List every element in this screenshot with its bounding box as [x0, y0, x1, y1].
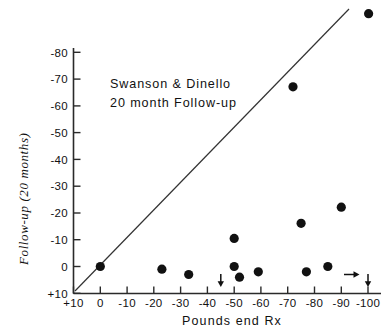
data-point — [184, 270, 193, 279]
data-point — [230, 234, 239, 243]
data-point — [288, 82, 297, 91]
x-axis-ticks — [74, 287, 369, 294]
x-tick-label: -80 — [306, 297, 324, 309]
y-tick-label: -40 — [50, 154, 68, 166]
line-of-identity — [75, 9, 349, 291]
y-tick-label: -30 — [50, 180, 68, 192]
y-tick-label: -60 — [50, 100, 68, 112]
data-point — [96, 262, 105, 271]
y-tick-label: 0 — [61, 261, 68, 273]
x-tick-label: -70 — [279, 297, 297, 309]
data-point — [323, 262, 332, 271]
data-point — [364, 9, 373, 18]
x-tick-label: 0 — [97, 297, 104, 309]
x-tick-label: -90 — [333, 297, 351, 309]
y-tick-label: -20 — [50, 207, 68, 219]
x-tick-label: +10 — [63, 297, 83, 309]
data-point — [337, 203, 346, 212]
x-tick-label: -60 — [252, 297, 270, 309]
y-axis-title: Follow-up (20 months) — [16, 133, 31, 266]
x-axis-title: Pounds end Rx — [182, 314, 282, 328]
y-tick-label: -50 — [50, 127, 68, 139]
data-point — [297, 219, 306, 228]
annotation-line-1: Swanson & Dinello — [110, 77, 231, 91]
data-point — [254, 267, 263, 276]
scatter-plot-figure: -80 -70 -60 -50 -40 -30 -20 -10 0 +10 — [0, 0, 387, 334]
annotation-line-2: 20 month Follow-up — [110, 96, 237, 110]
plot-canvas: -80 -70 -60 -50 -40 -30 -20 -10 0 +10 — [0, 0, 387, 334]
data-point — [230, 262, 239, 271]
x-tick-label: -10 — [118, 297, 136, 309]
x-tick-label: -40 — [199, 297, 217, 309]
x-tick-label: -30 — [172, 297, 190, 309]
x-tick-label: -100 — [356, 297, 380, 309]
x-tick-label: -20 — [145, 297, 163, 309]
y-tick-label: -70 — [50, 73, 68, 85]
x-tick-label: -50 — [225, 297, 243, 309]
y-axis-ticks — [74, 52, 81, 293]
right-arrow-icon — [344, 271, 360, 277]
y-axis-tick-labels: -80 -70 -60 -50 -40 -30 -20 -10 0 +10 — [48, 47, 68, 300]
data-points — [96, 9, 374, 282]
y-tick-label: -80 — [50, 47, 68, 59]
down-arrow-icon — [365, 274, 371, 287]
data-point — [302, 267, 311, 276]
data-point — [157, 265, 166, 274]
y-tick-label: -10 — [50, 234, 68, 246]
down-arrow-icon — [218, 274, 224, 287]
x-axis-tick-labels: +10 0 -10 -20 -30 -40 -50 -60 -70 -80 -9… — [63, 297, 380, 309]
data-point — [235, 273, 244, 282]
